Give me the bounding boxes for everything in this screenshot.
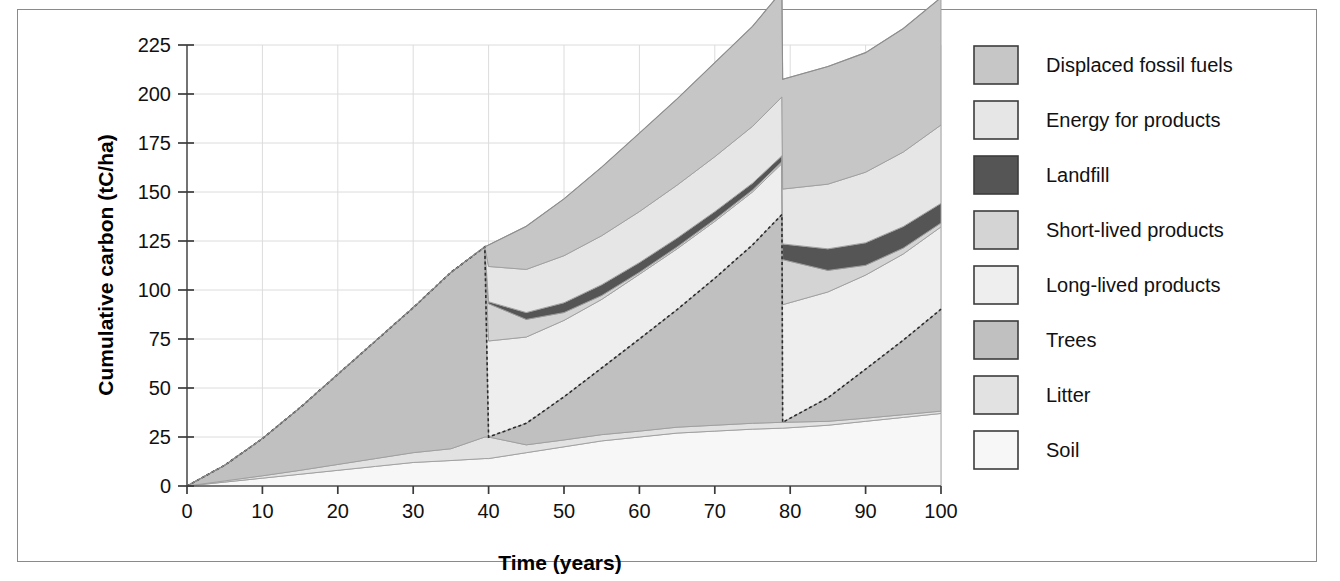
y-tick-label: 100 [138,279,171,301]
x-tick-label: 90 [854,500,876,522]
x-tick-label: 50 [553,500,575,522]
x-tick-label: 60 [628,500,650,522]
y-tick-label: 200 [138,83,171,105]
legend-swatch-displaced-fossil-fuels[interactable] [974,46,1018,84]
x-tick-label: 100 [924,500,957,522]
legend-label-energy-for-products: Energy for products [1046,109,1221,131]
legend-swatch-short-lived-products[interactable] [974,211,1018,249]
y-tick-label: 50 [149,377,171,399]
legend-label-litter: Litter [1046,384,1091,406]
x-tick-label: 0 [181,500,192,522]
y-tick-label: 150 [138,181,171,203]
legend-swatch-litter[interactable] [974,376,1018,414]
x-tick-label: 10 [251,500,273,522]
legend-swatch-long-lived-products[interactable] [974,266,1018,304]
y-tick-label: 75 [149,328,171,350]
legend-swatch-soil[interactable] [974,431,1018,469]
figure-container: 0255075100125150175200225010203040506070… [0,0,1340,581]
legend-label-long-lived-products: Long-lived products [1046,274,1221,296]
legend-group: Displaced fossil fuelsEnergy for product… [974,46,1233,469]
y-axis-title: Cumulative carbon (tC/ha) [94,134,117,395]
x-tick-label: 30 [402,500,424,522]
legend-label-landfill: Landfill [1046,164,1109,186]
legend-swatch-trees[interactable] [974,321,1018,359]
y-tick-label: 175 [138,132,171,154]
x-tick-label: 20 [327,500,349,522]
x-tick-label: 70 [704,500,726,522]
y-tick-label: 0 [160,475,171,497]
legend-label-displaced-fossil-fuels: Displaced fossil fuels [1046,54,1233,76]
stacked-area-chart: 0255075100125150175200225010203040506070… [0,0,1340,581]
y-tick-label: 25 [149,426,171,448]
legend-swatch-landfill[interactable] [974,156,1018,194]
x-axis-title: Time (years) [498,551,621,574]
x-tick-label: 80 [779,500,801,522]
legend-label-short-lived-products: Short-lived products [1046,219,1224,241]
x-tick-label: 40 [477,500,499,522]
y-tick-label: 225 [138,34,171,56]
legend-label-soil: Soil [1046,439,1079,461]
legend-swatch-energy-for-products[interactable] [974,101,1018,139]
y-tick-label: 125 [138,230,171,252]
legend-label-trees: Trees [1046,329,1096,351]
